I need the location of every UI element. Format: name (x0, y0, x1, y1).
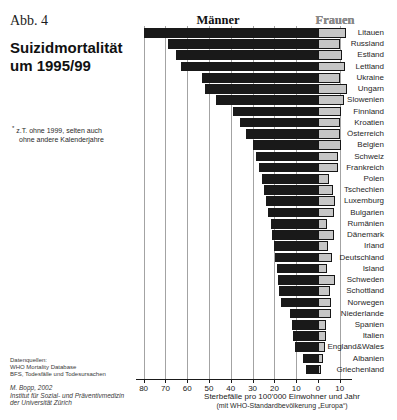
country-label-Island: Island (294, 263, 384, 274)
country-label-Schottland: Schottland (294, 285, 384, 296)
x-axis-tick (187, 379, 188, 383)
x-axis-tick (340, 379, 341, 383)
country-label-Österreich: Österreich (294, 128, 384, 139)
country-label-Niederlande: Niederlande (294, 308, 384, 319)
figure-page: Abb. 4 Suizidmortalität um 1995/99 *z.T.… (0, 0, 397, 420)
x-axis-tick (318, 379, 319, 383)
country-label-Ukraine: Ukraine (294, 72, 384, 83)
x-axis-tick (296, 379, 297, 383)
country-label-Italien: Italien (294, 330, 384, 341)
country-label-Slowenien: Slowenien (294, 94, 384, 105)
country-label-Griechenland: Griechenland (294, 364, 384, 375)
country-label-Norwegen: Norwegen (294, 297, 384, 308)
country-label-Ungarn: Ungarn (294, 83, 384, 94)
country-label-Dänemark: Dänemark (294, 229, 384, 240)
country-label-Bulgarien: Bulgarien (294, 207, 384, 218)
country-label-Irland: Irland (294, 240, 384, 251)
gridline (165, 26, 166, 379)
x-axis-tick-label: 70 (154, 384, 176, 393)
x-axis-tick (209, 379, 210, 383)
x-axis-label: Sterbefälle pro 100'000 Einwohner und Ja… (182, 392, 382, 401)
country-label-Polen: Polen (294, 173, 384, 184)
country-label-Tschechien: Tschechien (294, 184, 384, 195)
country-label-Lettland: Lettland (294, 61, 384, 72)
gridline (187, 26, 188, 379)
bar-chart-plot-area: LitauenRusslandEstlandLettlandUkraineUng… (0, 0, 397, 420)
country-label-Deutschland: Deutschland (294, 252, 384, 263)
x-axis-tick (165, 379, 166, 383)
x-axis-tick (253, 379, 254, 383)
country-label-Russland: Russland (294, 38, 384, 49)
country-label-Schweden: Schweden (294, 274, 384, 285)
x-axis-line (136, 379, 352, 380)
country-label-Litauen: Litauen (294, 27, 384, 38)
country-label-Belgien: Belgien (294, 139, 384, 150)
bar-male-Litauen (144, 28, 318, 38)
x-axis-tick (144, 379, 145, 383)
x-axis-sublabel: (mit WHO-Standardbevölkerung „Europa“) (182, 402, 382, 409)
country-label-Rumänien: Rumänien (294, 218, 384, 229)
gridline (144, 26, 145, 379)
country-label-Luxemburg: Luxemburg (294, 195, 384, 206)
country-label-Finnland: Finnland (294, 106, 384, 117)
country-label-Spanien: Spanien (294, 319, 384, 330)
country-label-Kroatien: Kroatien (294, 117, 384, 128)
country-label-Albanien: Albanien (294, 353, 384, 364)
x-axis-tick (274, 379, 275, 383)
x-axis-tick (231, 379, 232, 383)
x-axis-tick-label: 80 (133, 384, 155, 393)
country-label-England&Wales: England&Wales (294, 341, 384, 352)
country-label-Schweiz: Schweiz (294, 151, 384, 162)
country-label-Frankreich: Frankreich (294, 162, 384, 173)
country-label-Estland: Estland (294, 49, 384, 60)
